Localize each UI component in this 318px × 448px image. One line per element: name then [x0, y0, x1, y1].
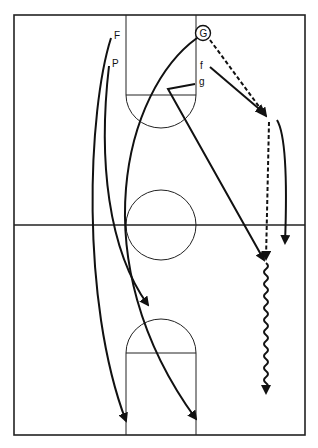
- cut-arrow-F: [93, 38, 126, 421]
- top-key: [126, 15, 196, 128]
- player-F-label: F: [114, 30, 120, 41]
- player-G-label: G: [200, 28, 208, 39]
- bottom-key: [126, 319, 196, 435]
- cut-arrow-f: [210, 67, 264, 113]
- player-G: G: [196, 26, 211, 41]
- pass-arrow-G: [210, 40, 266, 116]
- player-g-label: g: [199, 76, 205, 87]
- dribble-arrow: [264, 263, 268, 393]
- player-f-label: f: [200, 60, 203, 71]
- cut-arrow-g: [168, 84, 264, 260]
- player-P-label: P: [112, 58, 119, 69]
- pass-arrow-wing: [266, 122, 269, 259]
- basketball-court-diagram: G F P f g: [0, 0, 318, 448]
